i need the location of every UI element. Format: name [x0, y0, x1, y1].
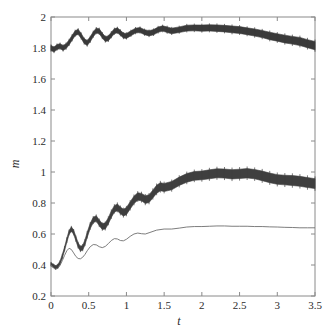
x-tick-label: 0 — [48, 300, 54, 311]
y-axis-title: m — [9, 160, 21, 169]
x-axis-title: t — [177, 315, 180, 327]
series-thin-line — [51, 226, 315, 269]
x-tick-label: 3 — [275, 300, 281, 311]
y-tick-label: 0.4 — [14, 260, 46, 271]
series-upper-band — [51, 23, 315, 53]
axis-ticks — [51, 17, 315, 296]
y-tick-label: 1.2 — [14, 136, 46, 147]
y-tick-label: 1.6 — [14, 74, 46, 85]
y-tick-label: 0.2 — [14, 291, 46, 302]
x-tick-label: 0.5 — [82, 300, 96, 311]
y-tick-label: 1.4 — [14, 105, 46, 116]
y-tick-label: 0.8 — [14, 198, 46, 209]
y-tick-label: 1.8 — [14, 43, 46, 54]
y-tick-label: 2 — [14, 12, 46, 23]
chart-plot — [0, 0, 335, 336]
y-tick-label: 0.6 — [14, 229, 46, 240]
series-middle-band — [51, 167, 315, 270]
x-tick-label: 2.5 — [233, 300, 247, 311]
figure-container: 0.20.40.60.811.21.41.61.82 00.511.522.53… — [0, 0, 335, 336]
data-series-group — [51, 23, 315, 269]
x-tick-label: 1.5 — [157, 300, 171, 311]
x-tick-label: 3.5 — [308, 300, 322, 311]
x-tick-label: 1 — [124, 300, 130, 311]
plot-frame — [51, 17, 315, 296]
x-tick-label: 2 — [199, 300, 205, 311]
